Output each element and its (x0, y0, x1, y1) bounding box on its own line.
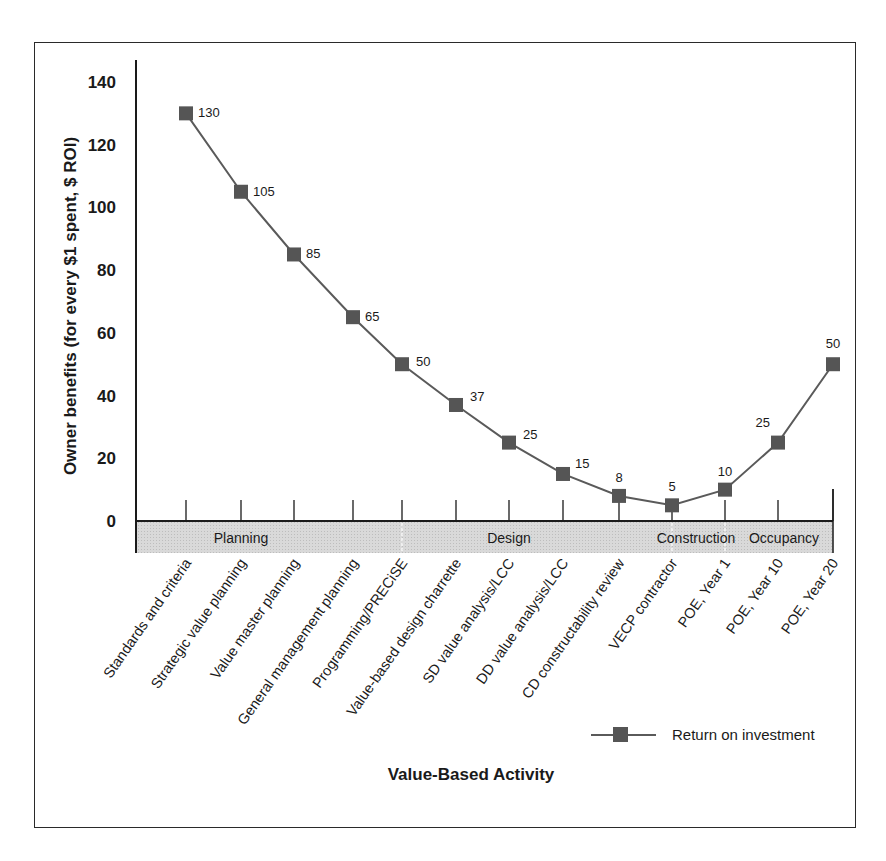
y-tick-label: 60 (97, 324, 116, 343)
data-point-marker (771, 436, 785, 450)
data-point-marker (234, 185, 248, 199)
data-point-marker (556, 467, 570, 481)
data-value-label: 50 (416, 354, 430, 369)
y-tick-label: 20 (97, 449, 116, 468)
category-label: POE, Year 10 (723, 556, 787, 637)
category-label: DD value analysis/LCC (473, 556, 572, 687)
y-axis-title: Owner benefits (for every $1 spent, $ RO… (61, 137, 80, 475)
data-point-marker (612, 489, 626, 503)
data-value-label: 130 (198, 105, 220, 120)
category-label: POE, Year 20 (778, 556, 842, 637)
y-tick-label: 0 (107, 512, 116, 531)
legend: Return on investment (591, 726, 815, 743)
data-value-label: 25 (523, 427, 537, 442)
y-tick-label: 80 (97, 261, 116, 280)
phase-label-occupancy: Occupancy (749, 530, 819, 546)
data-value-label: 5 (668, 479, 675, 494)
y-tick-label: 40 (97, 387, 116, 406)
data-point-marker (665, 498, 679, 512)
y-tick-label: 140 (88, 73, 116, 92)
category-label: Programming/PRECiSE (309, 555, 411, 691)
x-axis-title: Value-Based Activity (388, 765, 555, 784)
data-value-label: 8 (615, 470, 622, 485)
phase-label-planning: Planning (214, 530, 269, 546)
data-point-marker (449, 398, 463, 412)
category-labels: Standards and criteriaStrategic value pl… (100, 555, 841, 728)
legend-square-marker-icon (613, 727, 628, 742)
data-point-marker (346, 310, 360, 324)
data-value-label: 105 (253, 184, 275, 199)
phase-label-design: Design (487, 530, 531, 546)
data-value-label: 10 (718, 464, 732, 479)
data-value-label: 15 (575, 456, 589, 471)
y-tick-label: 120 (88, 136, 116, 155)
roi-line-chart: PlanningDesignConstructionOccupancy 0204… (0, 0, 886, 861)
category-label: CD constructability review (519, 555, 628, 701)
series-return-on-investment: 13010585655037251585102550 (179, 105, 840, 512)
data-point-marker (502, 436, 516, 450)
phase-label-construction: Construction (657, 530, 736, 546)
data-point-marker (826, 357, 840, 371)
category-label: Strategic value planning (148, 556, 250, 692)
data-value-label: 37 (470, 389, 484, 404)
data-point-marker (718, 483, 732, 497)
y-tick-label: 100 (88, 198, 116, 217)
data-value-label: 50 (826, 336, 840, 351)
y-axis: 020406080100120140 (88, 60, 136, 553)
category-label: POE, Year 1 (675, 556, 734, 631)
data-value-label: 65 (365, 309, 379, 324)
data-point-marker (395, 357, 409, 371)
data-point-marker (179, 106, 193, 120)
data-value-label: 85 (306, 246, 320, 261)
legend-label: Return on investment (672, 726, 815, 743)
category-label: SD value analysis/LCC (419, 556, 517, 687)
data-point-marker (287, 247, 301, 261)
data-value-label: 25 (756, 415, 770, 430)
